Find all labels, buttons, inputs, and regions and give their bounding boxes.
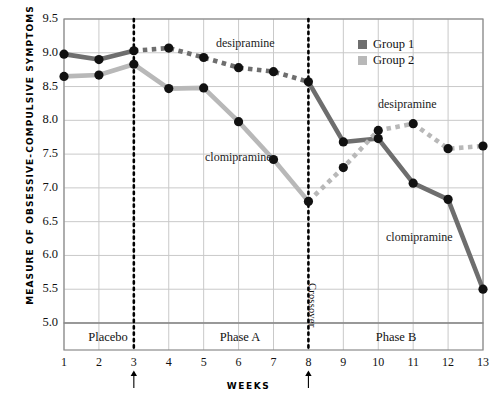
series-line-group-1-clomipramine [308,82,483,289]
data-point-group-1-week-12 [443,195,452,204]
data-point-group-1-week-4 [164,43,173,52]
legend: Group 1 Group 2 [358,36,414,68]
data-point-group-1-week-1 [59,50,68,59]
marker-arrowhead-week-3 [131,371,137,377]
data-point-group-2-week-12 [443,144,452,153]
data-point-group-1-week-9 [339,137,348,146]
data-point-group-2-week-3 [129,60,138,69]
data-point-group-1-week-13 [478,285,487,294]
data-point-group-1-week-5 [199,53,208,62]
legend-swatch-group-1 [358,40,367,49]
chart-container: MEASURE OF OBSESSIVE-COMPULSIVE SYMPTOMS… [0,0,497,405]
phase-label-phase-a: Phase A [166,330,314,345]
legend-item-group-1: Group 1 [358,36,414,52]
annotation-desipramine-right: desipramine [378,97,437,112]
annotation-desipramine-top: desipramine [216,36,275,51]
legend-swatch-group-2 [358,56,367,65]
data-point-group-2-week-9 [339,163,348,172]
legend-label-group-2: Group 2 [373,53,414,68]
data-point-group-1-week-8 [304,77,313,86]
data-point-group-2-week-10 [374,126,383,135]
data-point-group-2-week-2 [94,70,103,79]
series-line-group-2-clomipramine [134,64,309,201]
data-point-group-2-week-4 [164,84,173,93]
phase-label-placebo: Placebo [58,330,158,345]
data-point-group-1-week-11 [409,179,418,188]
legend-label-group-1: Group 1 [373,37,414,52]
annotation-clomipramine-right: clomipramine [386,230,453,245]
phase-label-phase-b: Phase B [322,330,470,345]
crossover-label: Crossover [307,283,318,327]
data-point-group-1-week-7 [269,67,278,76]
data-point-group-1-week-2 [94,55,103,64]
marker-arrowhead-week-8 [305,371,311,377]
data-point-group-2-week-6 [234,117,243,126]
data-point-group-2-week-5 [199,83,208,92]
data-point-group-2-week-11 [409,119,418,128]
data-point-group-1-week-6 [234,63,243,72]
data-point-group-1-week-10 [374,134,383,143]
data-point-group-2-week-1 [59,72,68,81]
x-axis-title: WEEKS [0,381,497,391]
data-point-group-2-week-8 [304,197,313,206]
data-point-group-1-week-3 [129,46,138,55]
data-point-group-2-week-13 [478,141,487,150]
legend-item-group-2: Group 2 [358,52,414,68]
annotation-clomipramine-left: clomipramine [205,150,272,165]
